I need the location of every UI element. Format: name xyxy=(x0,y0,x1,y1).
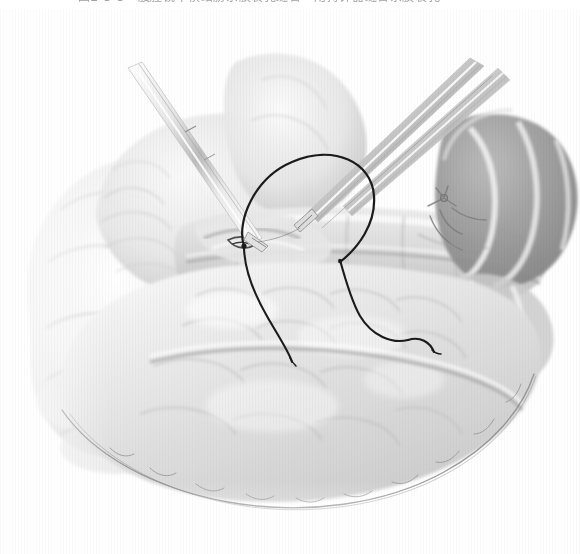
figure-page: 图2-3-5 腹腔镜下横结肠系膜裂孔缝合 用持针器缝合系膜裂孔 xyxy=(0,0,580,554)
figure-caption-strip: 图2-3-5 腹腔镜下横结肠系膜裂孔缝合 用持针器缝合系膜裂孔 xyxy=(0,0,580,9)
surgical-illustration xyxy=(0,10,580,554)
figure-caption: 图2-3-5 腹腔镜下横结肠系膜裂孔缝合 用持针器缝合系膜裂孔 xyxy=(78,0,440,3)
